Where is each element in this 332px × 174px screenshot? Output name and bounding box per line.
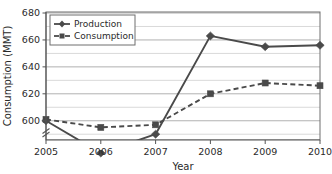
square-marker [317, 83, 323, 89]
square-marker-icon [60, 34, 65, 39]
chart-canvas: 680 660 640 620 600 2005 2006 2007 2008 … [0, 0, 332, 174]
legend: Production Consumption [50, 15, 135, 45]
y-tick-label: 600 [22, 115, 40, 126]
y-tick-label: 680 [22, 7, 40, 18]
square-marker [262, 80, 268, 86]
x-tick-label: 2007 [144, 146, 168, 157]
y-tick-label: 660 [22, 34, 40, 45]
y-tick-label: 620 [22, 88, 40, 99]
x-tick-label: 2008 [198, 146, 222, 157]
legend-label-production: Production [74, 19, 122, 29]
x-tick-label: 2009 [253, 146, 277, 157]
line-chart: 680 660 640 620 600 2005 2006 2007 2008 … [0, 0, 332, 174]
square-marker [207, 91, 213, 97]
x-tick-label: 2005 [34, 146, 58, 157]
below-frame-mask [46, 140, 320, 150]
legend-label-consumption: Consumption [74, 31, 134, 41]
y-tick-label: 640 [22, 61, 40, 72]
x-tick-label: 2006 [89, 146, 113, 157]
x-tick-label: 2010 [308, 146, 332, 157]
square-marker [153, 122, 159, 128]
y-axis-title: Consumption (MMT) [2, 26, 13, 127]
x-axis-title: Year [171, 161, 194, 172]
square-marker [98, 124, 104, 130]
